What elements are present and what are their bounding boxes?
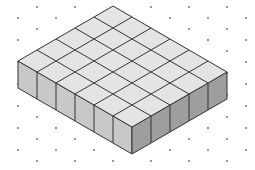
grid-dot — [245, 127, 247, 129]
grid-dot — [226, 50, 228, 52]
cube-block — [18, 6, 227, 154]
grid-dot — [36, 160, 38, 162]
grid-dot — [188, 28, 190, 30]
grid-dot — [245, 83, 247, 85]
grid-dot — [226, 116, 228, 118]
grid-dot — [17, 17, 19, 19]
grid-dot — [188, 6, 190, 8]
grid-dot — [245, 149, 247, 151]
grid-dot — [245, 39, 247, 41]
grid-dot — [207, 127, 209, 129]
grid-dot — [226, 6, 228, 8]
grid-dot — [36, 138, 38, 140]
grid-dot — [245, 105, 247, 107]
grid-dot — [226, 28, 228, 30]
grid-dot — [55, 127, 57, 129]
grid-dot — [245, 17, 247, 19]
grid-dot — [188, 138, 190, 140]
grid-dot — [55, 17, 57, 19]
grid-dot — [150, 160, 152, 162]
grid-dot — [207, 39, 209, 41]
grid-dot — [226, 160, 228, 162]
isometric-diagram: Isometric rectangular prism of unit cube… — [0, 0, 255, 170]
grid-dot — [17, 39, 19, 41]
grid-dot — [93, 149, 95, 151]
grid-dot — [55, 149, 57, 151]
grid-dot — [188, 160, 190, 162]
grid-dot — [245, 61, 247, 63]
grid-dot — [74, 160, 76, 162]
grid-dot — [207, 149, 209, 151]
grid-dot — [74, 6, 76, 8]
grid-dot — [169, 17, 171, 19]
grid-dot — [226, 138, 228, 140]
isometric-cube-block — [0, 0, 255, 170]
grid-dot — [36, 116, 38, 118]
grid-dot — [74, 138, 76, 140]
grid-dot — [17, 105, 19, 107]
grid-dot — [150, 6, 152, 8]
grid-dot — [112, 160, 114, 162]
grid-dot — [207, 17, 209, 19]
grid-dot — [169, 149, 171, 151]
grid-dot — [17, 127, 19, 129]
grid-dot — [17, 149, 19, 151]
grid-dot — [36, 28, 38, 30]
grid-dot — [36, 6, 38, 8]
